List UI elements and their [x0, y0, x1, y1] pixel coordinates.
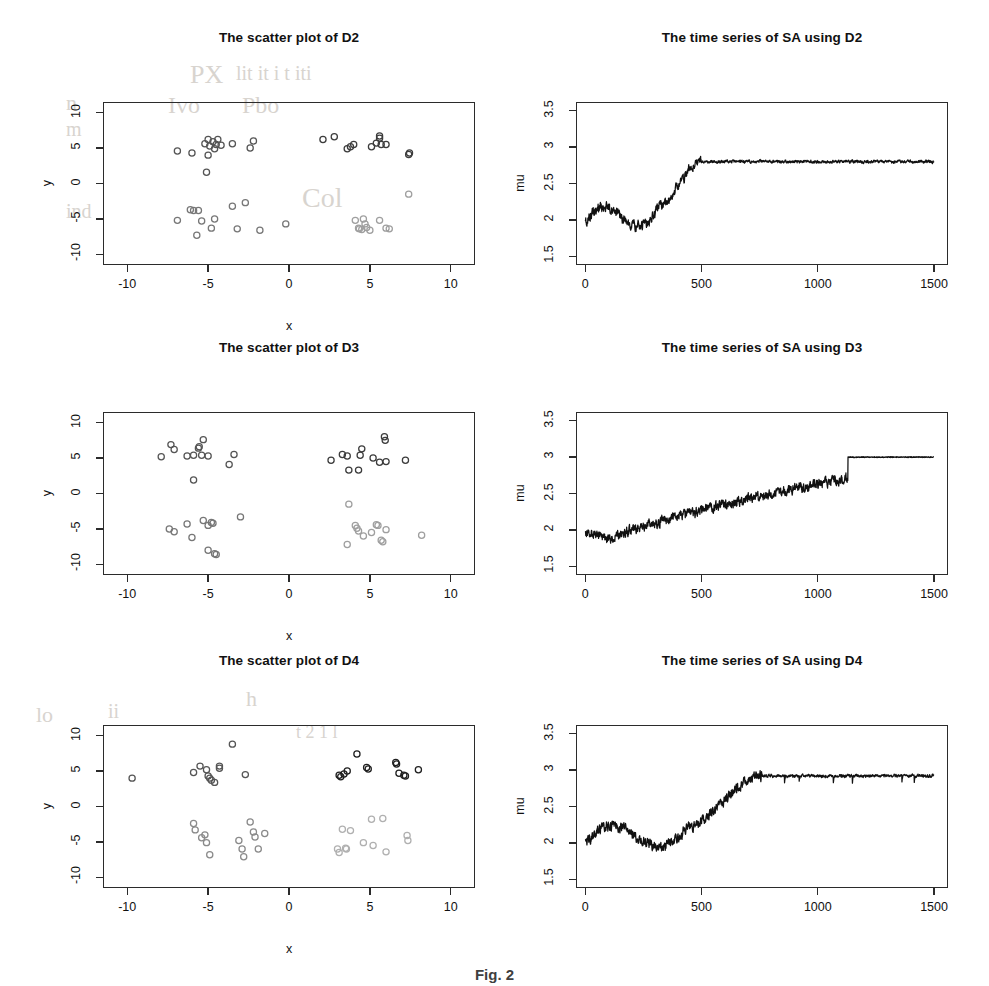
panel-series-d4: The time series of SA using D40500100015… [0, 645, 989, 945]
panel-series-d3: The time series of SA using D30500100015… [0, 332, 989, 632]
panel-series-d2: The time series of SA using D20500100015… [0, 22, 989, 322]
data-layer-series-d4 [0, 645, 989, 945]
time-series-line [585, 156, 934, 231]
data-layer-series-d3 [0, 332, 989, 632]
figure-container: PXlit it i t itinIvoPbomColindloiiht 2 1… [0, 0, 989, 986]
time-series-line [585, 457, 934, 544]
data-layer-series-d2 [0, 22, 989, 322]
time-series-line [585, 771, 934, 852]
figure-caption: Fig. 2 [0, 966, 989, 983]
